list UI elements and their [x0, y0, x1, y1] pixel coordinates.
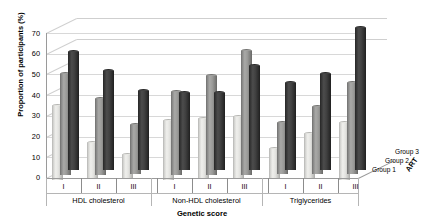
x-group-hdl: HDL cholesterol — [44, 196, 154, 205]
x-tick-tg-II: II — [306, 182, 336, 191]
gridline-back-upper — [77, 39, 387, 40]
bar-chart: Proportion of participants (%) 70 60 50 … — [0, 0, 429, 224]
tick-sep-3b — [157, 178, 158, 193]
bar-body — [179, 93, 190, 170]
y-tick-20: 20 — [18, 133, 40, 140]
tick-sep-4 — [192, 178, 193, 193]
x-axis-title: Genetic score — [82, 209, 322, 218]
gridline-60 — [46, 54, 356, 55]
y-tick-60: 60 — [18, 50, 40, 57]
bar-tg-I-group3 — [285, 81, 296, 170]
gridline-50 — [46, 74, 356, 75]
bar-nonhdl-III-group3 — [249, 64, 260, 170]
bar-body — [214, 93, 225, 170]
x-tick-nonhdl-III: III — [230, 182, 260, 191]
tick-sep-8 — [338, 178, 339, 193]
x-tick-tg-III: III — [341, 182, 371, 191]
y-tick-70: 70 — [18, 30, 40, 37]
x-axis-line — [46, 178, 358, 179]
x-tick-hdl-I: I — [49, 182, 79, 191]
x-axis-band-line — [46, 193, 358, 194]
bar-body — [285, 83, 296, 170]
plot-area: 70 60 50 40 30 20 10 0 — [0, 0, 429, 224]
x-tick-tg-I: I — [271, 182, 301, 191]
y-tick-0: 0 — [18, 174, 40, 181]
x-group-nonhdl: Non-HDL cholesterol — [152, 196, 262, 205]
x-tick-hdl-II: II — [84, 182, 114, 191]
tick-sep-5 — [227, 178, 228, 193]
y-axis-line — [46, 33, 47, 178]
tick-sep-2 — [116, 178, 117, 193]
bar-body — [68, 52, 79, 170]
bar-hdl-III-group3 — [138, 89, 149, 170]
bar-hdl-II-group3 — [103, 69, 114, 171]
x-tick-hdl-III: III — [119, 182, 149, 191]
bar-body — [355, 28, 366, 170]
x-group-tg: Triglycerides — [256, 196, 366, 205]
gridline-back-top — [77, 18, 387, 19]
tick-sep-7 — [303, 178, 304, 193]
bar-hdl-I-group3 — [68, 50, 79, 170]
y-tick-10: 10 — [18, 154, 40, 161]
depth-edge-70 — [46, 18, 77, 34]
gridline-70 — [46, 33, 356, 34]
legend-item-group2: Group 2 — [385, 157, 409, 164]
tick-sep-1 — [81, 178, 82, 193]
bar-nonhdl-II-group3 — [214, 91, 225, 170]
bar-tg-III-group3 — [355, 26, 366, 170]
bar-body — [249, 66, 260, 170]
x-tick-nonhdl-II: II — [195, 182, 225, 191]
gridline-40 — [46, 95, 356, 96]
legend-item-group3: Group 3 — [395, 148, 419, 155]
bar-body — [138, 91, 149, 170]
y-tick-50: 50 — [18, 71, 40, 78]
x-tick-nonhdl-I: I — [160, 182, 190, 191]
legend-item-group1: Group 1 — [372, 166, 396, 173]
bar-nonhdl-I-group3 — [179, 91, 190, 170]
y-tick-40: 40 — [18, 92, 40, 99]
bar-body — [103, 71, 114, 171]
tick-sep-6b — [268, 178, 269, 193]
bar-tg-II-group3 — [320, 72, 331, 170]
bar-body — [320, 74, 331, 170]
y-tick-30: 30 — [18, 112, 40, 119]
